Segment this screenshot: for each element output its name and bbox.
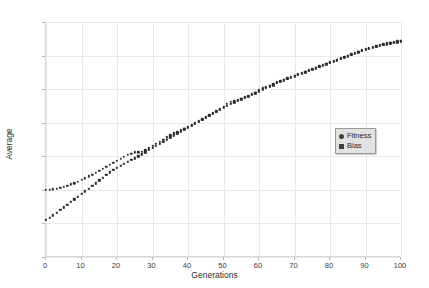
data-point — [307, 70, 309, 72]
data-point — [378, 44, 380, 46]
data-point — [112, 169, 114, 171]
data-point — [272, 84, 274, 86]
data-point — [134, 151, 136, 153]
data-point — [180, 130, 182, 132]
data-point — [258, 90, 260, 92]
data-point — [279, 81, 281, 83]
data-point — [102, 168, 104, 170]
data-point — [208, 115, 210, 117]
data-point — [251, 93, 253, 95]
data-point — [389, 42, 391, 44]
gridline-vertical — [401, 22, 402, 256]
x-tick-mark — [187, 257, 188, 260]
data-point — [176, 132, 178, 134]
data-point — [119, 164, 121, 166]
data-point — [357, 51, 359, 53]
x-tick-label: 30 — [147, 261, 155, 270]
legend-marker-square-icon — [339, 144, 344, 149]
data-point — [48, 217, 50, 219]
data-point — [187, 127, 189, 129]
legend-item-fitness[interactable]: Fitness — [339, 131, 371, 141]
data-point — [244, 97, 246, 99]
data-point — [66, 203, 68, 205]
data-point — [361, 50, 363, 52]
data-point — [339, 58, 341, 60]
data-point — [183, 128, 185, 130]
x-tick-label: 50 — [218, 261, 226, 270]
gridline-horizontal — [46, 156, 400, 157]
data-point — [325, 63, 327, 65]
data-point — [169, 136, 171, 138]
data-point — [66, 185, 68, 187]
chart-legend[interactable]: Fitness Bias — [335, 128, 376, 154]
data-point — [102, 177, 104, 179]
x-tick-mark — [81, 257, 82, 260]
data-point — [226, 105, 228, 107]
data-point — [130, 158, 132, 160]
data-point — [343, 56, 345, 58]
data-point — [371, 46, 373, 48]
data-point — [141, 153, 143, 155]
data-point — [73, 198, 75, 200]
data-point — [265, 87, 267, 89]
data-point — [215, 111, 217, 113]
data-point — [91, 185, 93, 187]
data-point — [52, 214, 54, 216]
data-point — [212, 113, 214, 115]
data-point — [276, 82, 278, 84]
y-axis-title-text: Average — [4, 128, 14, 160]
data-point — [350, 54, 352, 56]
y-tick-mark — [42, 190, 45, 191]
y-tick-mark — [42, 89, 45, 90]
data-point — [63, 185, 65, 187]
data-point — [77, 181, 79, 183]
y-tick-mark — [42, 123, 45, 124]
data-point — [364, 48, 366, 50]
data-point — [63, 206, 65, 208]
data-point — [59, 209, 61, 211]
data-point — [119, 158, 121, 160]
data-point — [105, 174, 107, 176]
x-tick-label: 80 — [325, 261, 333, 270]
data-point — [318, 66, 320, 68]
gridline-vertical — [117, 22, 118, 256]
x-tick-mark — [116, 257, 117, 260]
x-tick-mark — [294, 257, 295, 260]
x-tick-label: 100 — [394, 261, 407, 270]
data-point — [137, 155, 139, 157]
x-axis-title: Generations — [0, 270, 429, 280]
gridline-horizontal — [46, 190, 400, 191]
data-point — [151, 146, 153, 148]
data-point — [70, 201, 72, 203]
scatter-chart: 0,400,450,500,550,600,650,700,75 0102030… — [0, 0, 429, 288]
y-tick-mark — [42, 156, 45, 157]
gridline-horizontal — [46, 123, 400, 124]
data-point — [233, 101, 235, 103]
x-tick-label: 70 — [289, 261, 297, 270]
data-point — [77, 195, 79, 197]
data-point — [393, 42, 395, 44]
data-point — [219, 109, 221, 111]
x-tick-mark — [329, 257, 330, 260]
data-point — [70, 183, 72, 185]
data-point — [290, 77, 292, 79]
data-point — [98, 170, 100, 172]
data-point — [261, 88, 263, 90]
x-tick-label: 40 — [183, 261, 191, 270]
gridline-horizontal — [46, 223, 400, 224]
data-point — [190, 125, 192, 127]
x-tick-label: 90 — [360, 261, 368, 270]
data-point — [134, 157, 136, 159]
x-tick-mark — [45, 257, 46, 260]
gridline-vertical — [224, 22, 225, 256]
data-point — [148, 148, 150, 150]
data-point — [229, 103, 231, 105]
data-point — [94, 172, 96, 174]
data-point — [144, 151, 146, 153]
data-point — [98, 179, 100, 181]
legend-item-bias[interactable]: Bias — [339, 141, 371, 151]
data-point — [158, 142, 160, 144]
data-point — [80, 193, 82, 195]
x-tick-label: 20 — [112, 261, 120, 270]
data-point — [105, 166, 107, 168]
